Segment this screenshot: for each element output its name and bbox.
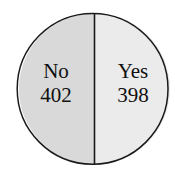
pie-label-no-value: 402 (22, 84, 90, 108)
pie-label-yes: Yes 398 (99, 60, 167, 107)
pie-label-no: No 402 (22, 60, 90, 107)
pie-label-yes-name: Yes (99, 60, 167, 84)
pie-label-yes-value: 398 (99, 84, 167, 108)
pie-chart-figure: No 402 Yes 398 (0, 0, 175, 179)
pie-label-no-name: No (22, 60, 90, 84)
